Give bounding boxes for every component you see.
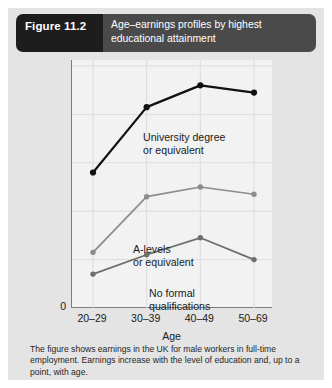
x-tick-label: 20–29 [66, 312, 118, 324]
series-label-alevels: A-levels or equivalent [133, 243, 194, 268]
figure-header: Figure 11.2 Age–earnings profiles by hig… [16, 14, 316, 52]
figure-caption: The figure shows earnings in the UK for … [30, 344, 315, 378]
y-axis-zero-label: 0 [48, 300, 66, 312]
series-label-noformal: No formal qualifications [149, 287, 210, 312]
x-axis-title: Age [71, 330, 272, 342]
figure-title-box: Age–earnings profiles by highest educati… [103, 14, 316, 52]
figure-number-label: Figure 11.2 [25, 20, 86, 32]
figure-card: Figure 11.2 Age–earnings profiles by hig… [8, 8, 324, 380]
figure-number-box: Figure 11.2 [16, 14, 103, 52]
chart-area: Average weekly earnings 0 University deg… [8, 54, 324, 336]
line-chart-svg [72, 60, 273, 308]
x-tick-label: 30–39 [120, 312, 172, 324]
x-tick-label: 50–69 [227, 312, 279, 324]
figure-title: Age–earnings profiles by highest educati… [111, 18, 308, 46]
x-tick-label: 40–49 [173, 312, 225, 324]
plot-frame [71, 60, 272, 308]
series-label-university: University degree or equivalent [143, 131, 225, 156]
